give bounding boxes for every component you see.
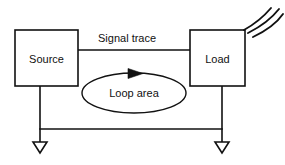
- loop-area-label: Loop area: [109, 87, 159, 99]
- radiation-arc-middle: [248, 9, 279, 33]
- source-block-label: Source: [29, 53, 64, 65]
- arrowhead-right-icon: [128, 69, 143, 79]
- ground-symbol-right-icon: [215, 142, 229, 153]
- radiation-arcs-icon: [244, 8, 283, 37]
- radiation-arc-outer: [253, 14, 283, 37]
- diagram-canvas: Source Load Signal trace Loop area: [0, 0, 285, 165]
- diagram-svg: Source Load Signal trace Loop area: [0, 0, 285, 165]
- ground-symbol-left-icon: [33, 142, 47, 153]
- signal-trace-label: Signal trace: [98, 32, 156, 44]
- load-block-label: Load: [205, 53, 229, 65]
